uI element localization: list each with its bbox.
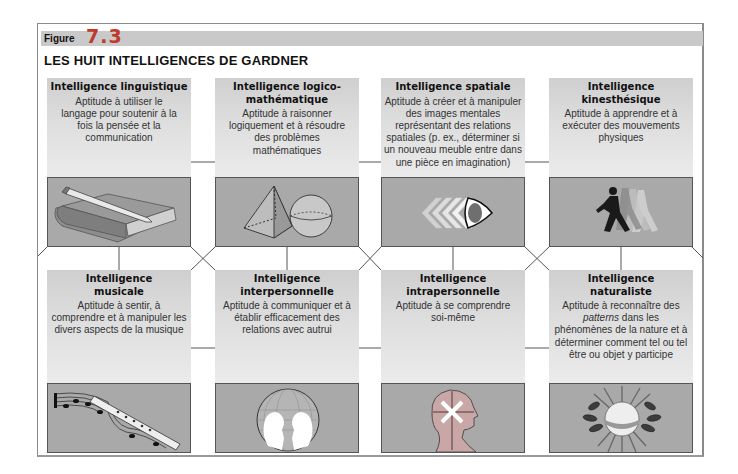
card-description: Aptitude à raisonner logiquement et à ré… — [215, 108, 359, 157]
eye-chevrons-icon — [381, 177, 525, 247]
two-faces-globe-icon — [215, 383, 359, 453]
card-description: Aptitude à sentir, à comprendre et à man… — [47, 300, 191, 337]
card-description: Aptitude à communiquer et à établir effi… — [215, 300, 359, 337]
flute-music-notes-icon — [47, 383, 191, 453]
card-title: Intelligence naturaliste — [549, 273, 693, 298]
sun-leaves-icon — [549, 383, 693, 453]
runner-icon — [549, 177, 693, 247]
book-pencil-icon — [47, 177, 191, 247]
card-interpersonnelle: Intelligence interpersonnelle Aptitude à… — [215, 270, 359, 383]
card-title: Intelligence musicale — [47, 273, 191, 298]
card-description: Aptitude à apprendre et à exécuter des m… — [549, 108, 693, 145]
card-spatiale: Intelligence spatiale Aptitude à créer e… — [381, 78, 525, 177]
card-kinesthesique: Intelligence kinesthésique Aptitude à ap… — [549, 78, 693, 177]
card-naturaliste: Intelligence naturaliste Aptitude à reco… — [549, 270, 693, 383]
head-profile-icon — [381, 383, 525, 453]
card-title: Intelligence intrapersonnelle — [381, 273, 525, 298]
pyramid-sphere-icon — [215, 177, 359, 247]
card-title: Intelligence logico-mathématique — [215, 81, 359, 106]
card-description: Aptitude à se comprendre soi-même — [381, 300, 525, 324]
card-title: Intelligence kinesthésique — [549, 81, 693, 106]
card-title: Intelligence spatiale — [381, 81, 525, 94]
card-title: Intelligence linguistique — [47, 81, 191, 94]
card-description: Aptitude à utiliser le langage pour sout… — [47, 96, 191, 145]
card-title: Intelligence interpersonnelle — [215, 273, 359, 298]
card-musicale: Intelligence musicale Aptitude à sentir,… — [47, 270, 191, 383]
card-intrapersonnelle: Intelligence intrapersonnelle Aptitude à… — [381, 270, 525, 383]
card-logico-mathematique: Intelligence logico-mathématique Aptitud… — [215, 78, 359, 177]
card-linguistique: Intelligence linguistique Aptitude à uti… — [47, 78, 191, 177]
card-description: Aptitude à reconnaître des patterns dans… — [549, 300, 693, 361]
card-description: Aptitude à créer et à manipuler des imag… — [381, 96, 525, 169]
